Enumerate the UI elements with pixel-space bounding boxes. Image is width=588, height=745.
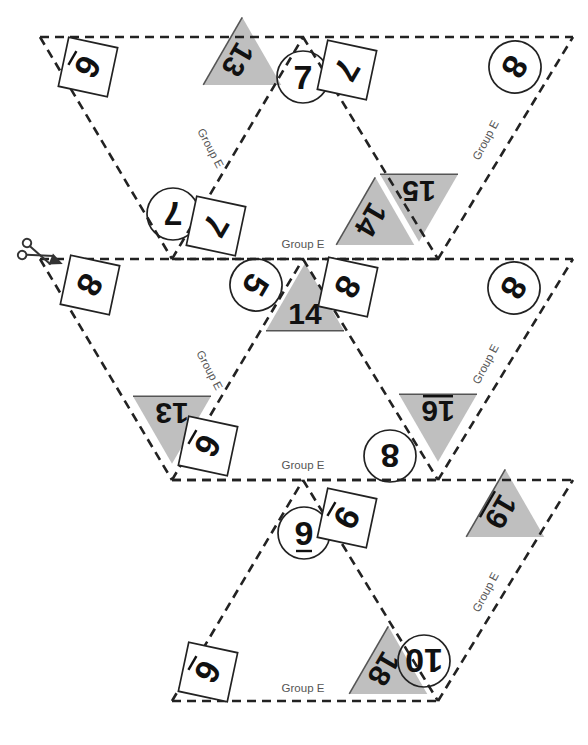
square-number-marker: 9 (304, 475, 390, 561)
group-label: Group E (282, 459, 325, 471)
marker-label: 9 (295, 514, 314, 552)
group-label: Group E (470, 118, 501, 162)
marker-label: 7 (294, 58, 313, 96)
group-label: Group E (282, 682, 325, 694)
group-label: Group E (282, 238, 325, 250)
group-label: Group E (195, 126, 226, 170)
shaded-triangle-label: 15 (402, 175, 435, 208)
square-number-marker: 8 (47, 242, 133, 328)
scissors-icon (17, 238, 67, 275)
marker-label: 5 (235, 267, 277, 302)
marker-label: 10 (405, 642, 443, 680)
marker-label: 7 (164, 195, 183, 233)
circle-number-marker: 10 (398, 635, 450, 687)
shaded-triangle: 16 (399, 394, 477, 462)
circle-number-marker: 8 (364, 430, 416, 482)
square-number-marker: 7 (173, 183, 259, 269)
group-label: Group E (194, 348, 225, 392)
marker-label: 8 (494, 49, 536, 84)
shaded-triangle-label: 14 (288, 297, 322, 330)
shaded-triangle: 13 (203, 17, 301, 118)
triangle-template-canvas: 1315141413161918 (0, 0, 588, 745)
square-number-marker: 7 (304, 27, 390, 113)
shaded-triangle-label: 16 (421, 395, 454, 428)
marker-label: 8 (381, 437, 400, 475)
marker-label: 8 (493, 270, 535, 305)
cutout-template-page: 1315141413161918 (0, 0, 588, 745)
shaded-triangle-label: 13 (155, 397, 188, 430)
group-label: Group E (470, 342, 501, 386)
